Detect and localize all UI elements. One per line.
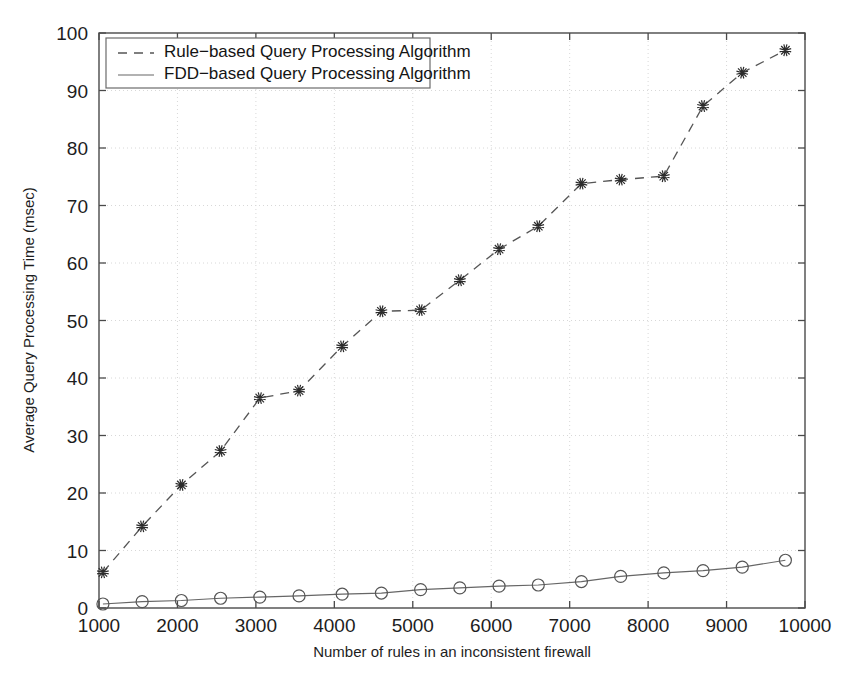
y-axis-title: Average Query Processing Time (msec) [20, 187, 37, 453]
chart-legend: Rule−based Query Processing AlgorithmFDD… [106, 38, 471, 88]
data-point-marker-star [532, 220, 544, 232]
x-tick-label: 4000 [313, 615, 355, 636]
data-point-marker-star [736, 67, 748, 79]
y-tick-label: 40 [67, 368, 88, 389]
x-tick-label: 6000 [470, 615, 512, 636]
x-tick-label: 8000 [627, 615, 669, 636]
series-fdd-based [97, 554, 791, 610]
y-tick-label: 70 [67, 196, 88, 217]
data-point-marker-star [254, 392, 266, 404]
series-rule-based [97, 44, 791, 578]
grid-lines [99, 33, 805, 608]
data-point-marker-star [780, 44, 792, 56]
data-point-marker-star [215, 445, 227, 457]
x-axis-tick-labels: 1000200030004000500060007000800090001000… [78, 615, 832, 636]
series-line-rule-based [103, 50, 785, 572]
x-tick-label: 9000 [705, 615, 747, 636]
x-tick-label: 10000 [779, 615, 832, 636]
x-tick-label: 5000 [392, 615, 434, 636]
x-tick-label: 3000 [235, 615, 277, 636]
y-tick-label: 100 [56, 23, 88, 44]
data-point-marker-star [697, 100, 709, 112]
data-point-marker-star [493, 243, 505, 255]
data-point-marker-star [293, 385, 305, 397]
y-axis-tick-labels: 0102030405060708090100 [56, 23, 88, 619]
legend-label-fdd-based: FDD−based Query Processing Algorithm [164, 64, 471, 83]
x-tick-label: 7000 [549, 615, 591, 636]
legend-label-rule-based: Rule−based Query Processing Algorithm [164, 42, 471, 61]
data-point-marker-star [176, 479, 188, 491]
chart-figure: 1000200030004000500060007000800090001000… [0, 0, 864, 685]
y-tick-label: 0 [77, 598, 88, 619]
series-line-fdd-based [103, 560, 785, 604]
y-tick-label: 80 [67, 138, 88, 159]
data-point-marker-star [336, 341, 348, 353]
data-point-marker-star [576, 178, 588, 190]
y-tick-label: 50 [67, 311, 88, 332]
y-tick-label: 90 [67, 81, 88, 102]
y-tick-label: 20 [67, 483, 88, 504]
y-tick-label: 60 [67, 253, 88, 274]
x-tick-label: 2000 [156, 615, 198, 636]
data-point-marker-star [454, 274, 466, 286]
y-tick-label: 10 [67, 541, 88, 562]
data-point-marker-star [376, 306, 388, 318]
line-chart-canvas: 1000200030004000500060007000800090001000… [0, 0, 864, 685]
y-tick-label: 30 [67, 426, 88, 447]
x-axis-title: Number of rules in an inconsistent firew… [313, 643, 591, 660]
data-point-marker-star [136, 521, 148, 533]
